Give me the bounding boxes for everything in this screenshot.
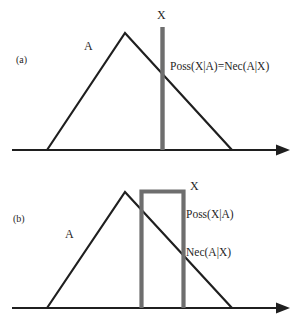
figure-root: (a) A X Poss(X|A)=Nec(A|X) (b) A X Poss(… [0,0,300,325]
panel-b-axis [12,303,290,314]
panel-b-axis-arrow-icon [276,303,290,314]
panel-b-annotation-necessity: Nec(A|X) [186,246,231,259]
panel-b-annotation-possibility: Poss(X|A) [186,208,234,221]
panel-a-axis [12,145,290,156]
panel-b-label: (b) [13,213,25,225]
panel-a: (a) A X Poss(X|A)=Nec(A|X) [12,8,290,156]
panel-a-set-label-a: A [84,39,93,53]
panel-a-observation-label-x: X [157,8,166,22]
panel-b-set-label-a: A [65,227,74,241]
panel-a-fuzzy-set-a-triangle [47,33,232,150]
panel-b: (b) A X Poss(X|A) Nec(A|X) [12,179,290,314]
panel-b-observation-label-x: X [190,179,199,193]
possibility-necessity-figure: (a) A X Poss(X|A)=Nec(A|X) (b) A X Poss(… [0,0,300,325]
panel-a-axis-arrow-icon [276,145,290,156]
panel-a-annotation-poss-nec-equality: Poss(X|A)=Nec(A|X) [170,60,269,73]
panel-a-label: (a) [16,54,27,66]
